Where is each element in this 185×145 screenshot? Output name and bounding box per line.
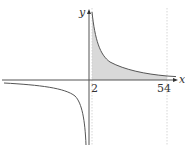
- hyperbola-area-chart: y x 2 54: [0, 0, 185, 145]
- y-axis-arrow-icon: [87, 9, 91, 14]
- curve-left-branch: [4, 83, 86, 145]
- x-axis-arrow-icon: [173, 78, 178, 82]
- y-axis-label: y: [78, 6, 86, 19]
- tick-label-54: 54: [157, 82, 171, 95]
- x-axis-label: x: [179, 73, 185, 86]
- tick-label-2: 2: [91, 82, 98, 95]
